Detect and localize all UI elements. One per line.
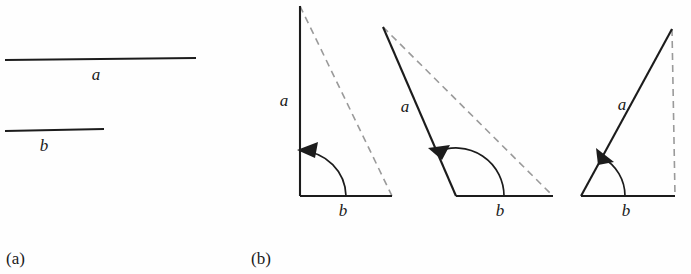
triangle-3-dashed-closure	[672, 29, 675, 196]
triangle-1-label-a: a	[280, 91, 289, 110]
triangle-obtuse-90-group: a b	[280, 6, 392, 220]
triangle-2-label-a: a	[401, 97, 410, 116]
panel-b-label: (b)	[251, 249, 271, 268]
triangle-3-label-a: a	[618, 95, 627, 114]
panel-a-group: a b (a)	[5, 58, 196, 268]
triangle-acute-group: a b	[581, 29, 675, 220]
triangle-1-label-b: b	[339, 201, 348, 220]
triangle-1-angle-arc	[302, 151, 347, 196]
triangle-2-label-b: b	[496, 201, 505, 220]
figure-svg: a b (a) a b a	[0, 0, 691, 274]
triangle-2-angle-arc	[437, 148, 504, 196]
segment-b-label: b	[40, 136, 49, 155]
triangle-obtuse-wide-group: a b	[383, 27, 553, 220]
triangle-3-side-a	[581, 29, 672, 196]
triangle-2-side-a	[383, 27, 456, 196]
triangle-1-dashed-closure	[300, 6, 392, 196]
panel-a-label: (a)	[6, 249, 25, 268]
segment-a-line	[5, 58, 196, 60]
triangle-3-label-b: b	[622, 201, 631, 220]
figure-container: a b (a) a b a	[0, 0, 691, 274]
segment-a-label: a	[92, 65, 101, 84]
segment-b-line	[5, 129, 104, 131]
